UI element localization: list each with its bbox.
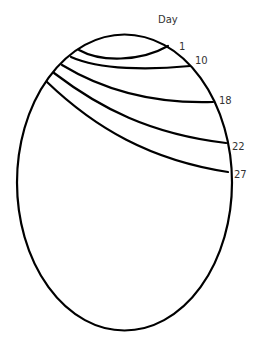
day-line-22 — [54, 73, 226, 143]
day-label-27: 27 — [234, 169, 247, 180]
day-label-22: 22 — [232, 141, 245, 152]
day-label-1: 1 — [179, 41, 185, 52]
day-label-18: 18 — [219, 95, 232, 106]
day-line-18 — [62, 65, 213, 102]
outline-ellipse — [17, 35, 232, 331]
day-line-1 — [79, 46, 168, 59]
day-lines: 110182227 — [47, 41, 247, 180]
axis-title: Day — [158, 14, 178, 25]
day-label-10: 10 — [195, 55, 208, 66]
growth-ring-diagram: Day 110182227 — [0, 0, 265, 353]
